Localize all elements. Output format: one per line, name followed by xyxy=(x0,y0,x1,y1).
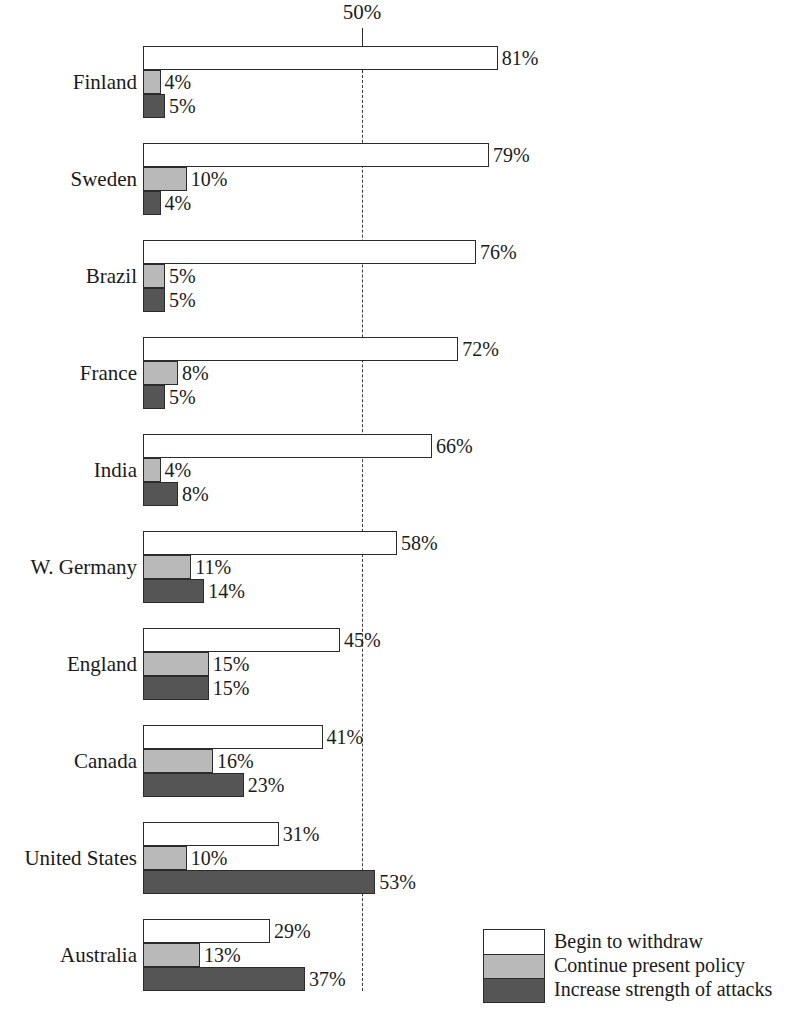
bar-value-label: 58% xyxy=(397,533,438,553)
bar-group: Finland81%4%5% xyxy=(0,46,804,118)
bar-value-label: 72% xyxy=(458,339,499,359)
bar-value-label: 15% xyxy=(209,678,250,698)
bar-group: Sweden79%10%4% xyxy=(0,143,804,215)
country-label-text: France xyxy=(80,363,137,384)
bar-value-label: 31% xyxy=(279,824,320,844)
country-label-text: India xyxy=(94,460,137,481)
bar-row: 16% xyxy=(143,749,804,773)
country-label-india: India xyxy=(0,458,137,482)
bar-withdraw xyxy=(143,628,340,652)
bar-row: 5% xyxy=(143,288,804,312)
country-label-england: England xyxy=(0,652,137,676)
bar-row: 31% xyxy=(143,822,804,846)
bar-value-label: 4% xyxy=(161,193,192,213)
country-label-w-germany: W. Germany xyxy=(0,555,137,579)
bar-row: 5% xyxy=(143,94,804,118)
bar-value-label: 11% xyxy=(191,557,231,577)
bar-withdraw xyxy=(143,46,498,70)
bar-withdraw xyxy=(143,337,458,361)
bar-group: Canada41%16%23% xyxy=(0,725,804,797)
bar-continue xyxy=(143,458,161,482)
bar-increase xyxy=(143,773,244,797)
country-label-text: United States xyxy=(24,848,137,869)
bar-value-label: 5% xyxy=(165,387,196,407)
bar-increase xyxy=(143,967,305,991)
bar-row: 72% xyxy=(143,337,804,361)
bar-row: 10% xyxy=(143,846,804,870)
country-label-finland: Finland xyxy=(0,70,137,94)
bar-increase xyxy=(143,870,375,894)
bar-value-label: 81% xyxy=(498,48,539,68)
country-label-france: France xyxy=(0,361,137,385)
bar-withdraw xyxy=(143,531,397,555)
legend-swatch-stack xyxy=(483,929,545,1003)
bar-row: 66% xyxy=(143,434,804,458)
bar-value-label: 66% xyxy=(432,436,473,456)
legend-label-increase: Increase strength of attacks xyxy=(554,977,772,1001)
bar-row: 4% xyxy=(143,191,804,215)
white-swatch-icon xyxy=(484,930,544,954)
bar-row: 15% xyxy=(143,652,804,676)
bar-increase xyxy=(143,385,165,409)
bar-continue xyxy=(143,652,209,676)
bar-continue xyxy=(143,749,213,773)
country-label-brazil: Brazil xyxy=(0,264,137,288)
bar-row: 15% xyxy=(143,676,804,700)
bar-group: France72%8%5% xyxy=(0,337,804,409)
country-label-text: Canada xyxy=(74,751,137,772)
bar-value-label: 4% xyxy=(161,72,192,92)
bar-row: 11% xyxy=(143,555,804,579)
bar-value-label: 23% xyxy=(244,775,285,795)
bar-group: United States31%10%53% xyxy=(0,822,804,894)
bar-row: 4% xyxy=(143,70,804,94)
bar-increase xyxy=(143,288,165,312)
bar-row: 5% xyxy=(143,264,804,288)
bar-withdraw xyxy=(143,434,432,458)
bar-value-label: 14% xyxy=(204,581,245,601)
bar-group: Brazil76%5%5% xyxy=(0,240,804,312)
bar-row: 76% xyxy=(143,240,804,264)
bar-withdraw xyxy=(143,725,323,749)
bar-value-label: 8% xyxy=(178,363,209,383)
bar-value-label: 53% xyxy=(375,872,416,892)
dark-gray-swatch-icon xyxy=(484,978,544,1002)
country-label-canada: Canada xyxy=(0,749,137,773)
bar-value-label: 10% xyxy=(187,169,228,189)
country-label-text: Brazil xyxy=(86,266,137,287)
bar-value-label: 37% xyxy=(305,969,346,989)
bar-withdraw xyxy=(143,143,489,167)
bar-withdraw xyxy=(143,919,270,943)
bar-increase xyxy=(143,579,204,603)
bar-value-label: 8% xyxy=(178,484,209,504)
bar-increase xyxy=(143,94,165,118)
bar-row: 4% xyxy=(143,458,804,482)
bar-value-label: 10% xyxy=(187,848,228,868)
bar-value-label: 29% xyxy=(270,921,311,941)
bar-row: 8% xyxy=(143,361,804,385)
bar-row: 14% xyxy=(143,579,804,603)
bar-value-label: 5% xyxy=(165,266,196,286)
bar-row: 81% xyxy=(143,46,804,70)
country-label-australia: Australia xyxy=(0,943,137,967)
country-label-text: Finland xyxy=(73,72,137,93)
bar-row: 41% xyxy=(143,725,804,749)
bar-row: 45% xyxy=(143,628,804,652)
bar-row: 23% xyxy=(143,773,804,797)
bar-value-label: 76% xyxy=(476,242,517,262)
bar-group: India66%4%8% xyxy=(0,434,804,506)
bar-group: W. Germany58%11%14% xyxy=(0,531,804,603)
bar-withdraw xyxy=(143,822,279,846)
bar-row: 5% xyxy=(143,385,804,409)
bar-increase xyxy=(143,676,209,700)
country-label-sweden: Sweden xyxy=(0,167,137,191)
bar-continue xyxy=(143,361,178,385)
country-label-text: England xyxy=(67,654,137,675)
bar-row: 10% xyxy=(143,167,804,191)
bar-value-label: 4% xyxy=(161,460,192,480)
bar-continue xyxy=(143,943,200,967)
country-label-text: Australia xyxy=(60,945,137,966)
legend-label-stack: Begin to withdrawContinue present policy… xyxy=(554,929,772,1001)
bar-continue xyxy=(143,846,187,870)
bar-withdraw xyxy=(143,240,476,264)
bar-value-label: 13% xyxy=(200,945,241,965)
